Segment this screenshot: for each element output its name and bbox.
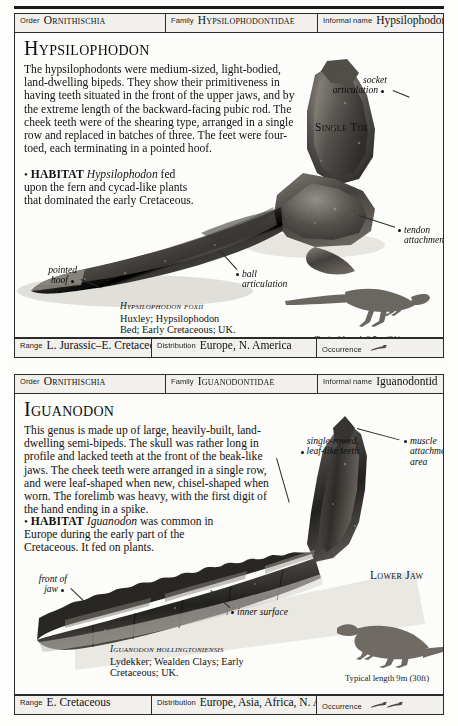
order-value: Ornithischia	[44, 375, 106, 387]
intro-paragraph: The hypsilophodonts were medium-sized, l…	[24, 63, 306, 155]
specimen-line-3: Cretaceous; UK.	[110, 667, 244, 679]
habitat-block: • HABITAT Iguanodon was common in Europe…	[24, 514, 236, 555]
annotation-dot	[404, 440, 407, 443]
habitat-label: HABITAT	[31, 515, 84, 528]
annotation-dot	[301, 451, 304, 454]
informal-name-value: Iguanodontid	[376, 375, 437, 387]
order-label: Order	[20, 16, 40, 25]
footer-range-cell: Range L. Jurassic–E. Cretaceous	[15, 339, 151, 357]
footer-distribution-cell: Distribution Europe, N. America	[151, 339, 316, 357]
entry-iguanodon: Order Ornithischia Family Iguanodontidae…	[14, 374, 444, 718]
fact-file-page: Order Ornithischia Family Hypsilophodont…	[0, 0, 458, 726]
article-text-block: Hypsilophodon The hypsilophodonts were m…	[24, 37, 306, 155]
distribution-label: Distribution	[157, 341, 196, 350]
entry-footer: Range L. Jurassic–E. Cretaceous Distribu…	[14, 338, 444, 358]
annotation-dot	[236, 273, 239, 276]
distribution-value: Europe, Asia, Africa, N. America	[200, 696, 316, 708]
family-value: Hypsilophodontidae	[198, 14, 295, 26]
habitat-bullet: •	[24, 515, 28, 527]
family-label: Family	[171, 16, 194, 25]
side-label-line-1: Lower Jaw	[370, 569, 423, 581]
annotation-ball-articulation: ball articulation	[233, 269, 287, 290]
header-informal-cell: Informal name Iguanodontid	[317, 375, 443, 393]
bone-icon	[370, 696, 404, 714]
habitat-paragraph: • HABITAT Hypsilophodon fed upon the fer…	[24, 168, 194, 208]
header-order-cell: Order Ornithischia	[15, 14, 165, 32]
scale-silhouette-block: Typical length 2.5m (8ft)	[283, 281, 433, 338]
specimen-name: Hypsilophodon foxii	[120, 301, 236, 313]
occurrence-label: Occurrence	[322, 702, 362, 711]
scale-silhouette-block: Typical length 9m (30ft)	[325, 616, 444, 683]
header-family-cell: Family Iguanodontidae	[165, 375, 317, 393]
specimen-line-2: Lydekker; Wealden Clays; Early	[110, 656, 244, 668]
distribution-label: Distribution	[157, 698, 196, 707]
page-top-rule	[14, 6, 444, 9]
range-value: L. Jurassic–E. Cretaceous	[47, 339, 151, 351]
informal-name-value: Hypsilophodontid	[376, 14, 443, 26]
side-label-lower-jaw: Lower Jaw	[370, 569, 423, 581]
annotation-line-1: pointed	[21, 265, 77, 275]
annotation-muscle-attachment-area: muscle attachment area	[401, 436, 444, 467]
intro-paragraph: This genus is made up of large, heavily-…	[24, 424, 282, 516]
bone-icon	[370, 339, 388, 357]
informal-name-label: Informal name	[323, 377, 372, 386]
annotation-pointed-hoof: pointed hoof	[21, 265, 77, 286]
habitat-bullet: •	[24, 168, 28, 180]
entry-header: Order Ornithischia Family Hypsilophodont…	[14, 13, 444, 33]
entry-body: Iguanodon This genus is made up of large…	[14, 394, 444, 695]
entry-footer: Range E. Cretaceous Distribution Europe,…	[14, 695, 444, 715]
informal-name-label: Informal name	[323, 16, 372, 25]
order-value: Ornithischia	[44, 14, 106, 26]
annotation-line-2: leaf-like teeth	[271, 446, 359, 456]
specimen-caption: Iguanodon hollingtoniensis Lydekker; Wea…	[110, 644, 244, 679]
annotation-line-1: front of	[17, 574, 67, 584]
family-value: Iguanodontidae	[198, 375, 275, 387]
footer-occurrence-cell: Occurrence	[316, 339, 443, 357]
annotation-front-of-jaw: front of jaw	[17, 574, 67, 595]
scale-caption: Typical length 9m (30ft)	[325, 673, 444, 683]
entry-hypsilophodon: Order Ornithischia Family Hypsilophodont…	[14, 13, 444, 361]
page-title: Hypsilophodon	[24, 37, 306, 60]
habitat-block: • HABITAT Hypsilophodon fed upon the fer…	[24, 167, 194, 208]
specimen-line-2: Huxley; Hypsilophodon	[120, 313, 236, 325]
habitat-paragraph: • HABITAT Iguanodon was common in Europe…	[24, 515, 236, 555]
header-informal-cell: Informal name Hypsilophodontid	[317, 14, 443, 32]
distribution-value: Europe, N. America	[200, 339, 292, 351]
range-value: E. Cretaceous	[47, 696, 111, 708]
footer-distribution-cell: Distribution Europe, Asia, Africa, N. Am…	[151, 696, 316, 714]
annotation-line-2: articulation	[233, 279, 287, 289]
annotation-line-2: attachment	[395, 235, 444, 245]
iguanodon-silhouette-icon	[325, 616, 444, 668]
habitat-label: HABITAT	[31, 168, 84, 181]
specimen-caption: Hypsilophodon foxii Huxley; Hypsilophodo…	[120, 301, 236, 336]
annotation-line-2: hoof	[21, 275, 77, 285]
hypsilophodon-silhouette-icon	[283, 281, 433, 329]
article-text-block: Iguanodon This genus is made up of large…	[24, 398, 282, 516]
annotation-inner-surface: inner surface	[228, 607, 288, 617]
annotation-line-2: jaw	[17, 584, 67, 594]
specimen-name: Iguanodon hollingtoniensis	[110, 644, 244, 656]
header-order-cell: Order Ornithischia	[15, 375, 165, 393]
footer-range-cell: Range E. Cretaceous	[15, 696, 151, 714]
range-label: Range	[20, 698, 43, 707]
header-family-cell: Family Hypsilophodontidae	[165, 14, 317, 32]
habitat-genus: Hypsilophodon	[87, 168, 158, 181]
annotation-single-rowed-leaf-like-teeth: single-rowed, leaf-like teeth	[271, 436, 359, 457]
order-label: Order	[20, 377, 40, 386]
entry-header: Order Ornithischia Family Iguanodontidae…	[14, 374, 444, 394]
side-label-single-toe: Single Toe	[315, 121, 369, 133]
annotation-dot	[381, 90, 384, 93]
entry-body: Hypsilophodon The hypsilophodonts were m…	[14, 33, 444, 338]
annotation-socket-articulation: socket articulation	[315, 75, 387, 96]
annotation-dot	[398, 229, 401, 232]
annotation-dot	[61, 589, 64, 592]
habitat-genus: Iguanodon	[87, 515, 137, 528]
side-label-line-1: Single Toe	[315, 121, 369, 133]
range-label: Range	[20, 341, 43, 350]
annotation-line-1: inner surface	[228, 607, 288, 617]
annotation-dot	[71, 280, 74, 283]
family-label: Family	[171, 377, 194, 386]
annotation-line-3: area	[401, 457, 444, 467]
specimen-line-3: Bed; Early Cretaceous; UK.	[120, 324, 236, 336]
annotation-tendon-attachment: tendon attachment	[395, 225, 444, 246]
